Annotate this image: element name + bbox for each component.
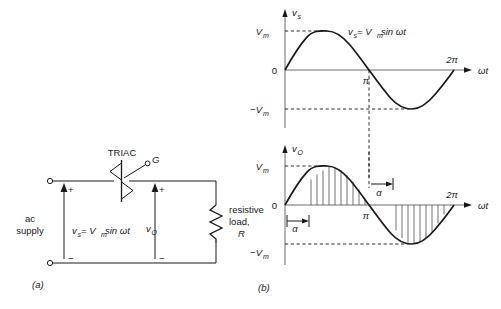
triac-ac-controller-figure: TRIAC G ac supply v s = V m sin ωt v O +… — [0, 0, 501, 309]
terminal-bottom-left — [47, 260, 52, 265]
bottom-yaxis-name-sub: O — [298, 149, 304, 156]
triac-label: TRIAC — [108, 147, 137, 158]
bottom-ytick-negative-vm: −V m — [250, 247, 269, 260]
gate-label: G — [152, 154, 159, 165]
chart-output-voltage: α α V m 0 −V m — [250, 143, 488, 265]
bottom-xaxis-label: ωt — [478, 200, 488, 211]
top-xtick-2pi: 2π — [445, 54, 458, 65]
annot-tail: sin ωt — [381, 26, 406, 37]
waveform-panel: V m 0 −V m v s π 2π ωt v — [250, 7, 488, 293]
supply-label-line2: supply — [16, 225, 44, 236]
source-expr-tail: sin ωt — [105, 225, 130, 236]
top-ytick-vm: V m — [256, 26, 269, 39]
bottom-yaxis-name: v O — [292, 143, 304, 156]
bottom-ytick-negvm-sub: m — [263, 253, 269, 260]
load-label-resistance: R — [238, 228, 245, 239]
output-voltage-label: v O — [146, 223, 158, 236]
triac-triangle-upper — [110, 163, 122, 180]
alpha2-label: α — [376, 187, 382, 198]
source-plus-sign: + — [68, 184, 74, 195]
panel-a-label: (a) — [32, 279, 44, 290]
top-ytick-zero: 0 — [272, 65, 277, 76]
load-label-line1: resistive — [229, 204, 264, 215]
firing-angle-marker-2: α — [371, 178, 393, 198]
supply-label-line1: ac — [25, 213, 35, 224]
annot-eq: = V — [357, 26, 373, 37]
alpha1-label: α — [292, 223, 298, 234]
source-equation-annotation: v s = V m sin ωt — [348, 26, 406, 39]
terminal-top-left — [47, 178, 52, 183]
gate-terminal — [145, 161, 150, 166]
bottom-ytick-negvm-v: −V — [250, 247, 264, 258]
triac-triangle-lower — [122, 182, 134, 199]
top-xtick-pi: π — [363, 75, 370, 86]
bottom-xtick-2pi: 2π — [445, 189, 458, 200]
bottom-ytick-vm-sub: m — [263, 167, 269, 174]
bottom-ytick-zero: 0 — [272, 200, 277, 211]
top-y-axis-arrow — [282, 9, 287, 17]
alpha1-arrowhead — [302, 219, 309, 224]
bottom-x-axis-arrow — [464, 202, 472, 208]
load-label-line2: load, — [229, 216, 250, 227]
alpha2-arrowhead — [386, 182, 393, 187]
gate-lead — [124, 165, 145, 178]
conduction-hatch-negative — [396, 205, 444, 244]
top-ytick-negative-vm: −V m — [250, 104, 269, 117]
firing-angle-marker-1: α — [287, 215, 309, 234]
bottom-xtick-pi: π — [363, 210, 370, 221]
source-minus-sign: − — [68, 253, 74, 264]
source-expr-eq: = V — [81, 225, 97, 236]
figure-container: TRIAC G ac supply v s = V m sin ωt v O +… — [0, 0, 501, 309]
top-yaxis-name: v s — [292, 7, 302, 20]
output-arrow-head — [152, 183, 159, 192]
resistor-symbol — [210, 205, 222, 243]
panel-b-label: (b) — [258, 282, 270, 293]
resistor-zigzag — [210, 205, 222, 243]
bottom-ytick-vm: V m — [256, 161, 269, 174]
circuit-panel: TRIAC G ac supply v s = V m sin ωt v O +… — [16, 147, 264, 290]
source-arrow-head — [61, 183, 68, 192]
top-ytick-negvm-v: −V — [250, 104, 264, 115]
output-minus-sign: − — [159, 253, 165, 264]
bottom-y-axis-arrow — [282, 145, 287, 153]
top-x-axis-arrow — [464, 67, 472, 73]
top-yaxis-name-sub: s — [298, 13, 302, 20]
top-ytick-vm-sub: m — [263, 32, 269, 39]
output-label-subscript: O — [152, 229, 158, 236]
conduction-hatch-positive — [311, 166, 365, 205]
top-ytick-negvm-sub: m — [263, 110, 269, 117]
top-xaxis-label: ωt — [478, 65, 488, 76]
source-expression: v s = V m sin ωt — [72, 225, 130, 238]
output-plus-sign: + — [159, 184, 165, 195]
